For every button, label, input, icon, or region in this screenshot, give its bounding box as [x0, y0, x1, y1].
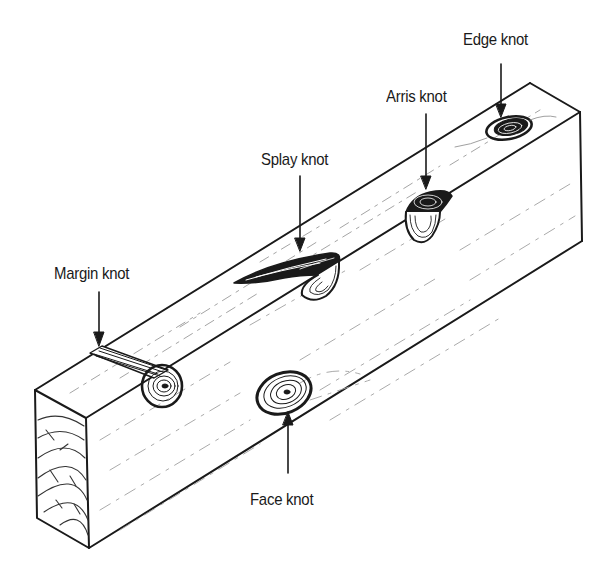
front-face-grain	[100, 184, 575, 530]
face-knot-drawing	[251, 364, 318, 422]
knot-diagram: Edge knot Arris knot Splay knot Margin k…	[0, 0, 609, 574]
arris-knot-label: Arris knot	[386, 87, 447, 107]
edge-knot-label: Edge knot	[463, 30, 528, 50]
splay-knot-label: Splay knot	[261, 150, 328, 170]
end-grain	[38, 416, 88, 535]
board-illustration	[0, 0, 609, 574]
edge-knot-drawing	[455, 112, 556, 147]
margin-knot-label: Margin knot	[54, 264, 129, 284]
face-knot-label: Face knot	[250, 490, 313, 510]
margin-knot-drawing	[90, 346, 182, 407]
arris-knot-drawing	[406, 191, 452, 243]
